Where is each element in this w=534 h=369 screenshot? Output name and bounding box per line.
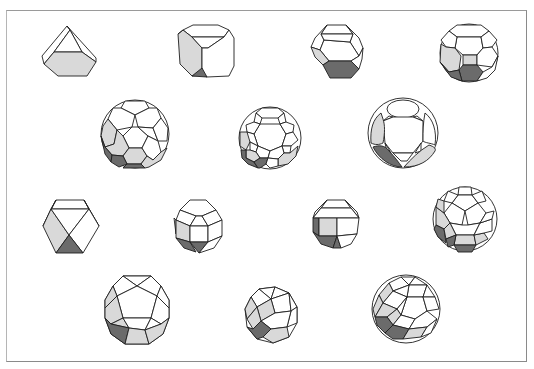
rhombicuboctahedron: rhombicuboctahedron: [311, 198, 361, 250]
icosidodecahedron: icosidodecahedron: [101, 274, 173, 346]
snub-dodecahedron: snub dodecahedron: [371, 273, 441, 345]
truncated-cuboctahedron: truncated cuboctahedron: [437, 22, 501, 84]
truncated-dodecahedron: truncated dodecahedron: [367, 97, 439, 169]
small-rhombicuboctahedron: small rhombicuboctahedron: [172, 198, 226, 254]
truncated-cube: truncated cube: [174, 24, 236, 80]
cuboctahedron: cuboctahedron: [41, 199, 101, 255]
truncated-octahedron: truncated octahedron: [309, 24, 365, 80]
small-rhombicosidodecahedron: small rhombicosidodecahedron: [432, 185, 498, 255]
truncated-icosahedron: truncated icosahedron: [99, 98, 171, 170]
truncated-tetrahedron: truncated tetrahedron: [40, 24, 100, 80]
truncated-icosidodecahedron: truncated icosidodecahedron: [238, 106, 302, 170]
snub-cube: snub cube: [243, 285, 301, 345]
